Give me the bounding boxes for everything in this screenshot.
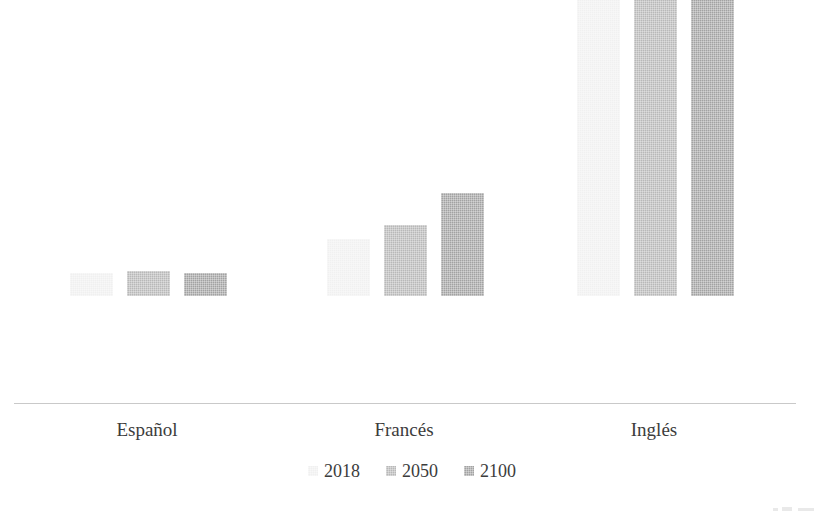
legend-item-2100[interactable]: 2100 <box>464 462 516 480</box>
chart-legend: 2018 2050 2100 <box>0 462 824 480</box>
bar[interactable] <box>327 239 370 296</box>
bar-slot: 1,1 <box>127 0 170 296</box>
legend-swatch-icon <box>386 466 396 476</box>
bar-slot: 1 <box>70 0 113 296</box>
legend-label: 2100 <box>480 462 516 480</box>
category-label-espanol: Español <box>70 420 224 439</box>
category-label-frances: Francés <box>327 420 481 439</box>
bar-slot: 1,1 <box>327 0 370 296</box>
bar[interactable] <box>127 271 170 296</box>
bar[interactable] <box>577 0 620 296</box>
bar-group-ingles: 13,7 14,8 14,8 <box>577 0 734 296</box>
legend-swatch-icon <box>464 466 474 476</box>
bar-slot: 14,8 <box>634 0 677 296</box>
bar-slot: 13,7 <box>577 0 620 296</box>
bar-slot: 1 <box>184 0 227 296</box>
legend-item-2050[interactable]: 2050 <box>386 462 438 480</box>
legend-label: 2050 <box>402 462 438 480</box>
legend-item-2018[interactable]: 2018 <box>308 462 360 480</box>
bar[interactable] <box>691 0 734 296</box>
x-axis-line <box>14 403 796 404</box>
bar-slot: 4,5 <box>441 0 484 296</box>
scan-edge-artifact <box>638 499 818 511</box>
grouped-bar-chart: 1 1,1 1 1,1 3,1 4,5 <box>0 0 824 513</box>
bar[interactable] <box>634 0 677 296</box>
bar[interactable] <box>70 273 113 296</box>
bar-group-espanol: 1 1,1 1 <box>70 0 227 296</box>
category-label-ingles: Inglés <box>577 420 731 439</box>
bar-group-frances: 1,1 3,1 4,5 <box>327 0 484 296</box>
bar-slot: 3,1 <box>384 0 427 296</box>
bar[interactable] <box>184 273 227 296</box>
bar[interactable] <box>441 193 484 296</box>
bar-slot: 14,8 <box>691 0 734 296</box>
bar[interactable] <box>384 225 427 296</box>
legend-label: 2018 <box>324 462 360 480</box>
plot-area: 1 1,1 1 1,1 3,1 4,5 <box>0 0 824 405</box>
legend-swatch-icon <box>308 466 318 476</box>
